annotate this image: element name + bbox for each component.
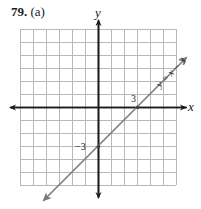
x-intercept-label: 3	[131, 93, 136, 104]
axes	[10, 20, 187, 198]
x-intercept-point	[136, 106, 140, 110]
y-intercept-label: −3	[75, 141, 86, 152]
equation-label: y = x − 3	[153, 55, 188, 90]
coordinate-graph: y x 3 −3 y = x − 3	[0, 0, 201, 209]
y-intercept-point	[97, 145, 101, 149]
x-axis-label: x	[187, 99, 194, 114]
y-axis-label: y	[93, 5, 101, 20]
